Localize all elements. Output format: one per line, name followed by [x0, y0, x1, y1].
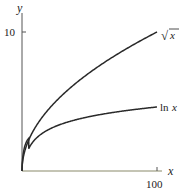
- y-tick-label-10: 10: [4, 26, 16, 38]
- sqrt-curve: [22, 32, 157, 171]
- function-plot: y 10 x 100 √ x ln x: [0, 0, 182, 192]
- x-axis-label: x: [167, 164, 174, 178]
- svg-text:ln: ln: [160, 101, 169, 113]
- ln-label: ln x: [160, 101, 177, 113]
- svg-text:x: x: [171, 101, 177, 113]
- sqrt-label: √ x: [161, 28, 179, 43]
- x-tick-label-100: 100: [146, 178, 163, 190]
- svg-text:x: x: [169, 29, 175, 41]
- svg-text:√: √: [161, 28, 169, 43]
- y-axis-label: y: [16, 1, 23, 15]
